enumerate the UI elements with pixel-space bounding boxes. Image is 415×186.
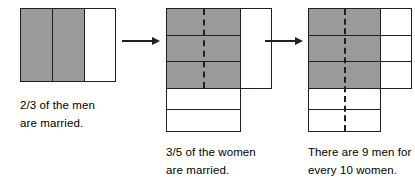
dashed-divider-ratio bbox=[344, 9, 346, 131]
model-side-cell-unshaded bbox=[380, 8, 412, 36]
model-part-unshaded bbox=[84, 8, 116, 82]
arrow-right-icon-2 bbox=[265, 33, 305, 49]
model-part-shaded bbox=[20, 8, 53, 82]
bar-model-ratio bbox=[308, 8, 412, 132]
model-row-unshaded bbox=[166, 109, 241, 132]
caption-ratio: There are 9 men for every 10 women. bbox=[308, 143, 412, 179]
panel-men: 2/3 of the men are married. bbox=[0, 0, 140, 186]
caption-men: 2/3 of the men are married. bbox=[20, 96, 95, 132]
caption-men-line2: are married. bbox=[20, 114, 95, 132]
panel-ratio: There are 9 men for every 10 women. bbox=[280, 0, 415, 186]
caption-women-line1: 3/5 of the women bbox=[166, 143, 256, 161]
caption-ratio-line1: There are 9 men for bbox=[308, 143, 412, 161]
caption-women-line2: are married. bbox=[166, 161, 256, 179]
arrow-head bbox=[152, 37, 160, 45]
caption-men-line1: 2/3 of the men bbox=[20, 96, 95, 114]
arrow-shaft bbox=[265, 40, 297, 42]
caption-women: 3/5 of the women are married. bbox=[166, 143, 256, 179]
model-side-cell-unshaded bbox=[380, 61, 412, 89]
arrow-head bbox=[295, 37, 303, 45]
panel-women: 3/5 of the women are married. bbox=[140, 0, 280, 186]
bar-model-women bbox=[166, 8, 272, 132]
figure-canvas: 2/3 of the men are married. 3/5 of the w… bbox=[0, 0, 415, 186]
model-side-cell-unshaded bbox=[380, 35, 412, 63]
model-part-shaded bbox=[52, 8, 85, 82]
dashed-divider-women bbox=[203, 9, 205, 88]
arrow-shaft bbox=[122, 40, 154, 42]
arrow-right-icon-1 bbox=[122, 33, 162, 49]
model-row-unshaded bbox=[166, 88, 241, 111]
bar-model-men bbox=[20, 8, 116, 82]
caption-ratio-line2: every 10 women. bbox=[308, 161, 412, 179]
